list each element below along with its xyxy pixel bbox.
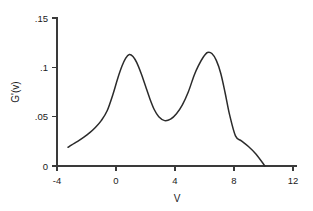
x-axis-title: V bbox=[174, 193, 181, 204]
x-tick-label-1: 0 bbox=[113, 175, 118, 186]
y-tick-label-2: .1 bbox=[40, 62, 48, 73]
y-tick-label-0: 0 bbox=[43, 161, 48, 172]
data-curve-line bbox=[68, 52, 265, 166]
x-tick-label-0: -4 bbox=[53, 175, 61, 186]
y-tick-label-1: .05 bbox=[35, 111, 48, 122]
x-tick-label-4: 12 bbox=[288, 175, 299, 186]
plot-area: .15 .1 .05 0 -4 0 4 8 12 V G'(v) bbox=[0, 0, 313, 211]
x-tick-label-3: 8 bbox=[231, 175, 236, 186]
y-tick-label-3: .15 bbox=[35, 13, 48, 24]
y-axis-title: G'(v) bbox=[10, 81, 21, 102]
x-tick-label-2: 4 bbox=[172, 175, 177, 186]
chart-figure: .15 .1 .05 0 -4 0 4 8 12 V G'(v) bbox=[0, 0, 313, 211]
